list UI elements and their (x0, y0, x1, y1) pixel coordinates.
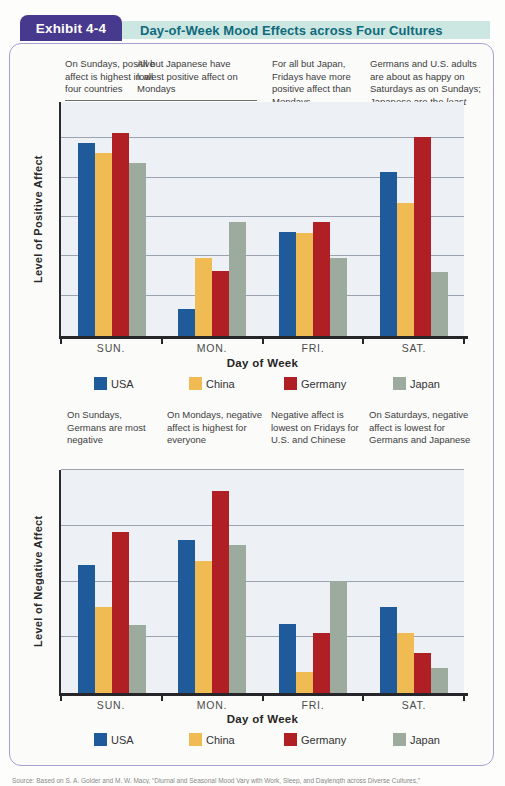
legend-label: China (206, 734, 235, 746)
bar-japan-sat (431, 272, 448, 336)
legend-item-china: China (189, 377, 235, 390)
legend-item-japan: Japan (393, 733, 440, 746)
axis-tick (161, 696, 163, 701)
bar-japan-mon (229, 222, 246, 336)
usa-legend-swatch (94, 377, 107, 390)
bar-germany-mon (212, 271, 229, 336)
bar-usa-sat (380, 172, 397, 336)
bar-japan-fri (330, 258, 347, 336)
axis-tick (463, 339, 465, 344)
legend-label: USA (111, 734, 134, 746)
axis-tick (362, 339, 364, 344)
bar-japan-sat (431, 668, 448, 693)
category-label-sun: SUN. (81, 342, 141, 354)
legend-item-germany: Germany (284, 733, 346, 746)
legend-label: China (206, 378, 235, 390)
category-label-sat: SAT. (384, 699, 444, 711)
axis-tick (262, 339, 264, 344)
category-label-mon: MON. (182, 342, 242, 354)
legend-label: Japan (410, 378, 440, 390)
bar-japan-fri (330, 581, 347, 693)
annotation-negative-friday: Negative affect is lowest on Fridays for… (271, 409, 365, 447)
bar-japan-sun (129, 625, 146, 693)
exhibit-title: Day-of-Week Mood Effects across Four Cul… (122, 23, 443, 38)
legend-label: USA (111, 378, 134, 390)
bar-china-fri (296, 672, 313, 693)
positive-affect-plot (61, 102, 464, 336)
legend-label: Germany (301, 734, 346, 746)
gridline (61, 469, 464, 470)
germany-legend-swatch (284, 377, 297, 390)
y-axis-label-positive: Level of Positive Affect (32, 102, 50, 336)
bar-usa-sat (380, 607, 397, 693)
gridline (61, 525, 464, 526)
bar-japan-sun (129, 163, 146, 336)
usa-legend-swatch (94, 733, 107, 746)
legend-item-usa: USA (94, 733, 134, 746)
bar-germany-sat (414, 137, 431, 336)
axis-tick (262, 696, 264, 701)
japan-legend-swatch (393, 377, 406, 390)
annotation-negative-sunday: On Sundays, Germans are most negative (67, 409, 162, 447)
x-axis-line (59, 336, 468, 339)
exhibit-title-bar: Day-of-Week Mood Effects across Four Cul… (122, 21, 490, 39)
bar-china-sun (95, 607, 112, 693)
legend-item-usa: USA (94, 377, 134, 390)
bar-germany-fri (313, 633, 330, 693)
bar-germany-sun (112, 133, 129, 336)
bar-china-sat (397, 203, 414, 336)
category-label-sun: SUN. (81, 699, 141, 711)
china-legend-swatch (189, 377, 202, 390)
x-axis-line (59, 693, 468, 696)
page: Day-of-Week Mood Effects across Four Cul… (0, 0, 505, 786)
bar-china-sun (95, 153, 112, 336)
category-label-mon: MON. (182, 699, 242, 711)
axis-tick (161, 339, 163, 344)
legend-label: Japan (410, 734, 440, 746)
bar-japan-mon (229, 545, 246, 693)
category-label-fri: FRI. (283, 342, 343, 354)
legend-item-germany: Germany (284, 377, 346, 390)
bar-usa-sun (78, 143, 95, 336)
bar-china-mon (195, 258, 212, 336)
bar-germany-sun (112, 532, 129, 693)
y-axis-line (59, 102, 61, 339)
annotation-negative-monday: On Mondays, negative affect is highest f… (167, 409, 271, 447)
annotation-positive-monday: All but Japanese have lowest positive af… (137, 58, 257, 101)
bar-germany-fri (313, 222, 330, 336)
category-label-sat: SAT. (384, 342, 444, 354)
bar-china-fri (296, 233, 313, 336)
annotation-negative-saturday: On Saturdays, negative affect is lowest … (369, 409, 471, 447)
exhibit-label: Exhibit 4-4 (36, 21, 106, 36)
bar-germany-mon (212, 491, 229, 693)
annotation-positive-friday: For all but Japan, Fridays have more pos… (272, 58, 372, 108)
exhibit-card: On Sundays, positive affect is highest i… (9, 43, 494, 766)
y-axis-line (59, 470, 61, 696)
axis-tick (463, 696, 465, 701)
x-axis-label-negative: Day of Week (61, 713, 464, 725)
china-legend-swatch (189, 733, 202, 746)
axis-tick (60, 696, 62, 701)
bar-germany-sat (414, 653, 431, 693)
x-axis-label-positive: Day of Week (61, 357, 464, 369)
exhibit-tab: Exhibit 4-4 (20, 15, 122, 41)
y-axis-label-negative: Level of Negative Affect (32, 470, 50, 693)
bar-usa-sun (78, 565, 95, 693)
category-label-fri: FRI. (283, 699, 343, 711)
axis-tick (362, 696, 364, 701)
bar-usa-mon (178, 540, 195, 693)
source-citation: Source: Based on S. A. Golder and M. W. … (12, 777, 502, 784)
axis-tick (60, 339, 62, 344)
legend-item-japan: Japan (393, 377, 440, 390)
germany-legend-swatch (284, 733, 297, 746)
japan-legend-swatch (393, 733, 406, 746)
legend-item-china: China (189, 733, 235, 746)
bar-china-sat (397, 633, 414, 693)
bar-usa-mon (178, 309, 195, 336)
bar-usa-fri (279, 232, 296, 336)
legend-label: Germany (301, 378, 346, 390)
negative-affect-plot (61, 470, 464, 693)
bar-china-mon (195, 561, 212, 693)
bar-usa-fri (279, 624, 296, 693)
